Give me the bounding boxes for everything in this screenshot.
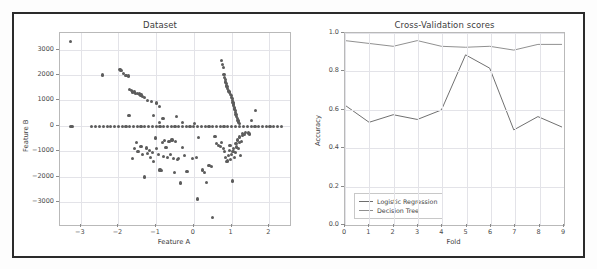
scatter-point: [160, 169, 163, 172]
figure-frame: Dataset Feature A Feature B −3−2−1012300…: [12, 12, 585, 258]
scatter-point: [131, 157, 134, 160]
scatter-point: [155, 101, 158, 104]
y-tick-mark: [341, 32, 344, 33]
scatter-point: [90, 125, 93, 128]
scatter-point: [250, 125, 253, 128]
x-tick-label: 0: [191, 228, 195, 236]
y-tick-label: 0.2: [329, 182, 339, 190]
scatter-point: [162, 155, 165, 158]
y-tick-mark: [56, 201, 59, 202]
scatter-point: [132, 125, 135, 128]
scatter-point: [188, 125, 191, 128]
scatter-point: [211, 125, 214, 128]
scatter-point: [181, 146, 184, 149]
scatter-point: [234, 151, 237, 154]
cv-legend[interactable]: Logistic Regression Decision Tree: [354, 193, 443, 219]
scatter-point: [117, 125, 120, 128]
legend-label-decision-tree: Decision Tree: [377, 207, 419, 214]
y-tick-mark: [56, 150, 59, 151]
scatter-point: [181, 125, 184, 128]
scatter-point: [223, 150, 226, 153]
y-tick-mark: [56, 49, 59, 50]
scatter-point: [170, 125, 173, 128]
scatter-point: [234, 125, 237, 128]
scatter-point: [151, 125, 154, 128]
legend-item-decision-tree[interactable]: Decision Tree: [359, 206, 437, 215]
scatter-point: [179, 181, 182, 184]
x-tick-mark: [514, 224, 515, 227]
gridline-vertical: [394, 33, 395, 225]
x-tick-mark: [231, 224, 232, 227]
gridline-horizontal: [345, 71, 564, 72]
scatter-point: [161, 117, 164, 120]
gridline-horizontal: [345, 110, 564, 111]
scatter-point: [185, 125, 188, 128]
scatter-point: [101, 73, 104, 76]
y-tick-mark: [341, 224, 344, 225]
gridline-vertical: [232, 33, 233, 225]
gridline-vertical: [81, 33, 82, 225]
x-tick-mark: [539, 224, 540, 227]
scatter-point: [170, 138, 173, 141]
y-tick-mark: [341, 109, 344, 110]
gridline-horizontal: [345, 187, 564, 188]
dataset-scatter-panel: Dataset Feature A Feature B −3−2−1012300…: [14, 14, 306, 256]
y-tick-label: 0.0: [329, 220, 339, 228]
x-tick-mark: [563, 224, 564, 227]
gridline-horizontal: [60, 202, 290, 203]
scatter-point: [248, 132, 251, 135]
scatter-point: [195, 156, 198, 159]
scatter-point: [257, 125, 260, 128]
scatter-point: [192, 125, 195, 128]
gridline-horizontal: [60, 177, 290, 178]
x-tick-label: 1: [366, 228, 370, 236]
scatter-point: [240, 140, 243, 143]
gridline-horizontal: [60, 50, 290, 51]
scatter-point: [158, 121, 161, 124]
y-tick-mark: [56, 99, 59, 100]
gridline-vertical: [491, 33, 492, 225]
cv-chart-title: Cross-Validation scores: [306, 20, 583, 30]
scatter-point: [121, 125, 124, 128]
scatter-point: [186, 170, 189, 173]
scatter-point: [272, 125, 275, 128]
scatter-point: [222, 125, 225, 128]
scatter-point: [228, 144, 231, 147]
gridline-vertical: [515, 33, 516, 225]
gridline-vertical: [118, 33, 119, 225]
scatter-point: [146, 152, 149, 155]
x-tick-mark: [466, 224, 467, 227]
x-tick-mark: [490, 224, 491, 227]
scatter-point: [213, 135, 216, 138]
x-tick-label: 9: [561, 228, 565, 236]
scatter-point: [71, 125, 74, 128]
x-tick-mark: [268, 224, 269, 227]
legend-label-logistic-regression: Logistic Regression: [377, 198, 437, 205]
scatter-point: [237, 147, 240, 150]
scatter-point: [124, 125, 127, 128]
scatter-point: [220, 141, 223, 144]
x-tick-label: 4: [439, 228, 443, 236]
y-tick-label: 2000: [37, 70, 54, 78]
x-tick-mark: [117, 224, 118, 227]
scatter-point: [169, 153, 172, 156]
y-tick-label: 0.4: [329, 143, 339, 151]
scatter-point: [175, 115, 178, 118]
gridline-horizontal: [60, 151, 290, 152]
gridline-vertical: [369, 33, 370, 225]
scatter-point: [127, 74, 130, 77]
scatter-point: [276, 125, 279, 128]
y-tick-label: 3000: [37, 45, 54, 53]
x-tick-mark: [393, 224, 394, 227]
gridline-horizontal: [60, 75, 290, 76]
legend-swatch-logistic-regression: [359, 201, 373, 202]
scatter-point: [231, 179, 234, 182]
x-tick-label: 8: [537, 228, 541, 236]
gridline-vertical: [345, 33, 346, 225]
scatter-point: [139, 145, 142, 148]
y-tick-label: −2000: [32, 172, 54, 180]
scatter-point: [166, 125, 169, 128]
legend-item-logistic-regression[interactable]: Logistic Regression: [359, 197, 437, 206]
scatter-point: [268, 125, 271, 128]
scatter-point: [226, 125, 229, 128]
